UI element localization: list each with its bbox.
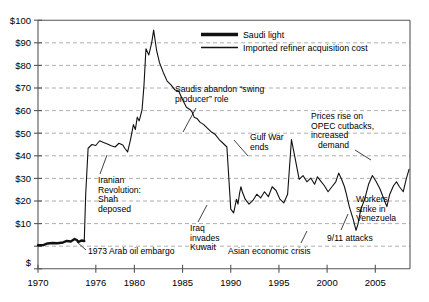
annotation-opec-cutbacks-line4: demand: [318, 140, 349, 150]
y-tick-label: $40: [15, 150, 31, 161]
x-tick-label: 1980: [124, 277, 145, 288]
annotation-opec-cutbacks-line1: Prices rise on: [311, 111, 363, 121]
legend-label-saudi-light: Saudi light: [243, 30, 285, 40]
legend-label-imported-refiner: Imported refiner acquisition cost: [243, 43, 368, 53]
x-tick-label: 2005: [365, 277, 386, 288]
annotation-saudis-swing-producer-line1: Saudis abandon “swing: [175, 84, 265, 94]
y-tick-label: $60: [15, 105, 31, 116]
chart-svg: $100 $90 $80 $70 $60 $50 $40 $30 $20 $10…: [0, 0, 429, 302]
annotation-venezuela-strike-line2: strike in: [356, 204, 386, 214]
y-tick-label: $100: [10, 15, 31, 26]
annotation-iraq-invades-kuwait-line3: Kuwait: [190, 242, 216, 252]
annotation-opec-cutbacks-line3: increased: [311, 130, 348, 140]
annotation-gulf-war-ends-line2: ends: [250, 142, 269, 152]
x-tick-label: 1985: [172, 277, 193, 288]
annotation-asian-economic-crisis: Asian economic crisis: [228, 246, 311, 256]
annotation-iranian-revolution-line2: Revolution:: [98, 185, 141, 195]
y-tick-label: $: [26, 257, 32, 268]
y-tick-label: $20: [15, 195, 31, 206]
annotation-iranian-revolution-line3: Shah: [98, 194, 118, 204]
annotation-iraq-invades-kuwait-line2: invades: [190, 233, 220, 243]
y-tick-label: $10: [15, 218, 31, 229]
x-tick-label: 1976: [85, 277, 106, 288]
annotation-arab-oil-embargo: 1973 Arab oil embargo: [88, 246, 175, 256]
y-tick-label: $50: [15, 128, 31, 139]
y-tick-label: $80: [15, 60, 31, 71]
x-tick-label: 1990: [220, 277, 241, 288]
y-tick-label: $90: [15, 37, 31, 48]
x-tick-label: 1970: [27, 277, 48, 288]
x-tick-label: 2000: [317, 277, 338, 288]
annotation-opec-cutbacks-line2: OPEC cutbacks,: [311, 121, 374, 131]
annotation-venezuela-strike-line3: Venezuela: [356, 213, 396, 223]
annotation-saudis-swing-producer-line2: producer” role: [175, 94, 229, 104]
annotation-gulf-war-ends-line1: Gulf War: [250, 132, 284, 142]
annotation-iranian-revolution-line4: deposed: [98, 204, 131, 214]
annotation-iraq-invades-kuwait-line1: Iraq: [190, 223, 205, 233]
oil-price-chart: $100 $90 $80 $70 $60 $50 $40 $30 $20 $10…: [0, 0, 429, 302]
annotation-september-11-attacks: 9/11 attacks: [327, 233, 373, 243]
x-tick-label: 1995: [268, 277, 289, 288]
annotation-venezuela-strike-line1: Workers: [356, 194, 388, 204]
y-tick-label: $30: [15, 173, 31, 184]
y-tick-label: $70: [15, 82, 31, 93]
annotation-iranian-revolution-line1: Iranian: [98, 175, 124, 185]
